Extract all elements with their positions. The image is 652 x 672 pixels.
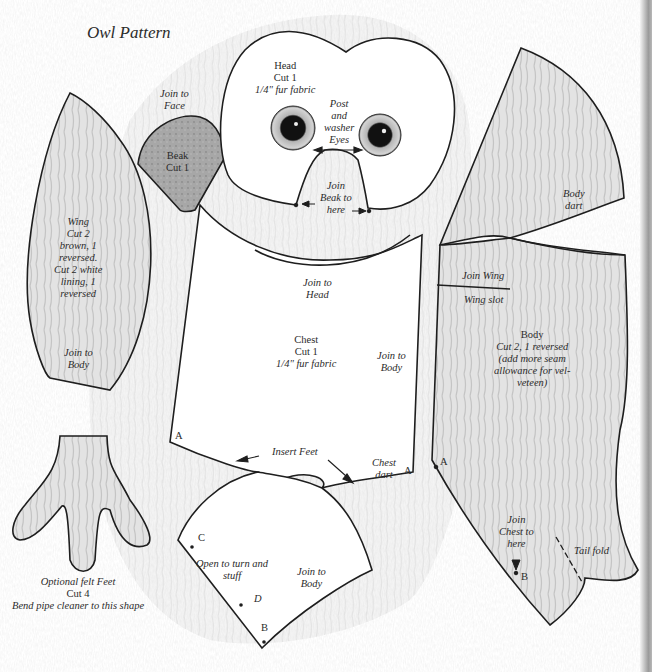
- text-line: Cut 2, 1 reversed: [494, 341, 570, 353]
- point-a-chest-left: A: [175, 430, 183, 441]
- tail-fold-label: Tail fold: [574, 545, 609, 557]
- text-line: (add more seam: [494, 353, 570, 365]
- text-line: Cut 2 white: [54, 264, 102, 276]
- wing-join-body-note: Join to Body: [64, 347, 93, 371]
- text-line: here: [320, 204, 352, 216]
- text-line: 1/4" fur fabric: [255, 84, 315, 96]
- text-line: Cut 4: [12, 588, 144, 600]
- point-b-chest: B: [261, 622, 268, 633]
- chest-join-body-note: Join to Body: [377, 350, 406, 374]
- text-line: Cut 1: [166, 162, 189, 174]
- text-line: dart: [372, 469, 396, 481]
- chest-dart-label: Chest dart: [372, 457, 396, 481]
- page-edge-shadow: [640, 0, 652, 672]
- text-line: washer: [324, 122, 354, 134]
- text-line: Face: [160, 100, 189, 112]
- text-line: veteen): [494, 377, 570, 389]
- text-line: Eyes: [324, 134, 354, 146]
- text-line: Body: [563, 188, 585, 200]
- body-label: Body Cut 2, 1 reversed (add more seam al…: [494, 329, 570, 389]
- point-b-body: B: [521, 571, 528, 582]
- chest-join-head-note: Join to Head: [303, 277, 332, 301]
- chest-lower-join-body-note: Join to Body: [297, 566, 326, 590]
- feet-label: Optional felt Feet Cut 4 Bend pipe clean…: [12, 576, 144, 612]
- text-line: Join to: [297, 566, 326, 578]
- eyes-note: Post and washer Eyes: [324, 98, 354, 146]
- text-line: Cut 2: [54, 228, 102, 240]
- text-line: Beak to: [320, 192, 352, 204]
- chest-label: Chest Cut 1 1/4" fur fabric: [276, 334, 336, 370]
- wing-label: Wing Cut 2 brown, 1 reversed. Cut 2 whit…: [54, 216, 102, 300]
- text-line: Post: [324, 98, 354, 110]
- head-label: Head Cut 1 1/4" fur fabric: [255, 60, 315, 96]
- text-line: Optional felt Feet: [12, 576, 144, 588]
- text-line: and: [324, 110, 354, 122]
- insert-feet-label: Insert Feet: [272, 446, 318, 458]
- beak-label: Beak Cut 1: [166, 150, 189, 174]
- text-line: Join to: [64, 347, 93, 359]
- text-line: Open to turn and: [196, 558, 268, 570]
- text-line: reversed.: [54, 252, 102, 264]
- point-d: D: [254, 593, 262, 604]
- text-line: Beak: [166, 150, 189, 162]
- text-line: Cut 1: [276, 346, 336, 358]
- join-chest-note: Join Chest to here: [499, 514, 534, 550]
- text-line: lining, 1: [54, 276, 102, 288]
- point-a-body: A: [440, 456, 448, 467]
- text-line: Chest: [276, 334, 336, 346]
- text-line: Chest: [372, 457, 396, 469]
- text-line: stuff: [196, 570, 268, 582]
- text-line: Head: [255, 60, 315, 72]
- point-c: C: [198, 532, 205, 543]
- text-line: Body: [494, 329, 570, 341]
- join-wing-label: Join Wing: [462, 270, 504, 282]
- text-line: here: [499, 538, 534, 550]
- text-line: Join to: [303, 277, 332, 289]
- point-a-chest-right: A: [404, 465, 412, 476]
- text-line: Bend pipe cleaner to this shape: [12, 600, 144, 612]
- wing-slot-label: Wing slot: [464, 294, 503, 306]
- pattern-title: Owl Pattern: [87, 23, 171, 43]
- beak-join-note: Join Beak to here: [320, 180, 352, 216]
- open-to-turn-note: Open to turn and stuff: [196, 558, 268, 582]
- text-line: brown, 1: [54, 240, 102, 252]
- text-line: reversed: [54, 288, 102, 300]
- text-line: Body: [377, 362, 406, 374]
- body-dart-label: Body dart: [563, 188, 585, 212]
- text-line: Join: [320, 180, 352, 192]
- text-line: Join: [499, 514, 534, 526]
- text-line: Body: [297, 578, 326, 590]
- text-line: Body: [64, 359, 93, 371]
- text-line: Cut 1: [255, 72, 315, 84]
- text-line: Wing: [54, 216, 102, 228]
- text-line: Join to: [160, 88, 189, 100]
- text-line: Join to: [377, 350, 406, 362]
- text-line: allowance for vel-: [494, 365, 570, 377]
- beak-join-face-note: Join to Face: [160, 88, 189, 112]
- text-line: Head: [303, 289, 332, 301]
- text-line: dart: [563, 200, 585, 212]
- text-line: Chest to: [499, 526, 534, 538]
- text-line: 1/4" fur fabric: [276, 358, 336, 370]
